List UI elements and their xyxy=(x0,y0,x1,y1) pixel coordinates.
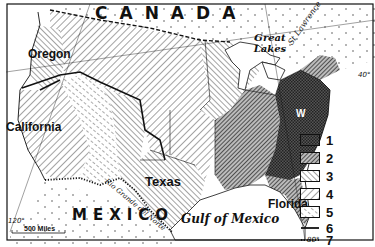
label-lat-40: 40° xyxy=(358,72,370,79)
legend-item-7: 7 xyxy=(300,233,333,247)
label-oregon: Oregon xyxy=(28,48,71,60)
label-gulf-of-mexico: Gulf of Mexico xyxy=(181,213,279,225)
legend-item-1: 1 xyxy=(300,133,333,147)
scale-bar-label: 500 Miles xyxy=(24,225,55,232)
label-california: California xyxy=(6,121,61,133)
legend-item-3: 3 xyxy=(300,169,333,183)
legend-swatch-crosshatch-icon xyxy=(300,134,320,146)
legend-dotted-line-icon xyxy=(300,234,320,246)
label-w-marker: W xyxy=(296,109,305,119)
legend-item-2: 2 xyxy=(300,151,333,165)
legend-swatch-diagonal-left-icon xyxy=(300,170,320,182)
label-texas: Texas xyxy=(145,175,181,188)
label-lon-120: 120° xyxy=(8,218,25,225)
legend-swatch-wide-diagonal-icon xyxy=(300,188,320,200)
historical-map: CANADA MEXICO Oregon California Texas Fl… xyxy=(0,0,375,247)
legend-swatch-broken-diagonal-icon xyxy=(300,206,320,218)
legend-item-5: 5 xyxy=(300,205,333,219)
legend-swatch-dense-diagonal-icon xyxy=(300,152,320,164)
legend-item-4: 4 xyxy=(300,187,333,201)
label-canada: CANADA xyxy=(95,5,247,22)
label-great-lakes: Great Lakes xyxy=(248,32,292,54)
